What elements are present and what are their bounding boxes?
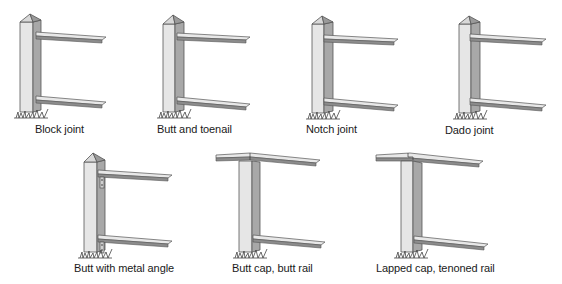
caption-butt-with-metal-angle: Butt with metal angle	[74, 262, 174, 274]
fence-post-illustration	[280, 0, 420, 120]
caption-butt-cap-butt-rail: Butt cap, butt rail	[232, 262, 313, 274]
figure-notch-joint: Notch joint	[280, 0, 420, 140]
caption-butt-and-toenail: Butt and toenail	[157, 123, 232, 135]
fence-post-illustration	[60, 140, 220, 264]
figure-butt-and-toenail: Butt and toenail	[140, 0, 280, 140]
figure-dado-joint: Dado joint	[410, 0, 562, 140]
figure-butt-cap-butt-rail: Butt cap, butt rail	[200, 140, 360, 284]
figure-butt-with-metal-angle: Butt with metal angle	[60, 140, 220, 284]
metal-angle-upper	[100, 177, 104, 188]
caption-lapped-cap-tenoned-rail: Lapped cap, tenoned rail	[376, 262, 495, 274]
caption-notch-joint: Notch joint	[306, 123, 357, 135]
fence-post-illustration	[410, 0, 562, 120]
figure-lapped-cap-tenoned-rail: Lapped cap, tenoned rail	[360, 140, 562, 284]
fence-post-illustration	[360, 140, 562, 264]
caption-dado-joint: Dado joint	[445, 124, 494, 136]
caption-block-joint: Block joint	[35, 123, 84, 135]
fence-post-illustration	[140, 0, 280, 120]
figure-block-joint: Block joint	[0, 0, 140, 140]
fence-post-illustration	[0, 0, 140, 120]
fence-post-illustration	[200, 140, 360, 264]
